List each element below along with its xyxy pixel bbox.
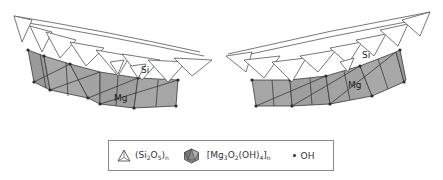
serpentine-structure-diagram: Si Mg — [0, 0, 443, 130]
left-structure: Si Mg — [14, 16, 212, 110]
dot-icon — [293, 154, 296, 157]
legend-label-hydroxyl: OH — [301, 151, 315, 161]
right-mg-label: Mg — [348, 80, 361, 90]
legend-item-brucite: [Mg3O2(OH)4]n — [183, 148, 271, 164]
legend: (Si2O5)n [Mg3O2(OH)4]n OH — [108, 140, 334, 171]
left-mg-label: Mg — [114, 93, 127, 103]
right-si-label: Si — [362, 50, 370, 60]
tetrahedron-icon — [117, 149, 131, 162]
legend-item-silicate: (Si2O5)n — [117, 149, 169, 162]
right-structure: Si Mg — [226, 12, 430, 108]
octahedron-icon — [183, 148, 200, 164]
legend-label-silicate: (Si2O5)n — [135, 150, 169, 161]
legend-label-brucite: [Mg3O2(OH)4]n — [207, 150, 271, 161]
legend-item-hydroxyl: OH — [293, 151, 315, 161]
left-si-label: Si — [141, 65, 149, 75]
